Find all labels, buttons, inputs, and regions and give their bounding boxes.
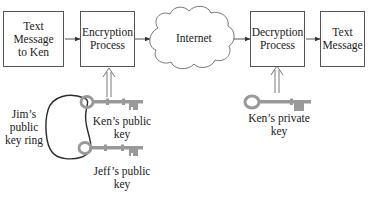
jeff-public-key-label: Jeff’s public key: [87, 165, 157, 191]
box-label-line: to Ken: [13, 46, 53, 59]
plaintext-output-box: Text Message: [320, 11, 365, 67]
jeff-public-key-icon: [79, 143, 143, 157]
encryption-process-box: Encryption Process: [80, 11, 135, 67]
label-line: Jeff’s public: [87, 165, 157, 178]
ken-private-key-icon: [245, 96, 311, 111]
box-label-line: Encryption: [82, 26, 133, 39]
key-ring-label: Jim’s public key ring: [4, 108, 44, 147]
decryption-process-box: Decryption Process: [250, 11, 305, 67]
box-label-line: Decryption: [252, 26, 304, 39]
label-line: key: [87, 178, 157, 191]
label-line: key: [87, 128, 157, 141]
ken-public-key-icon: [81, 97, 143, 111]
box-label-line: Message: [13, 33, 53, 46]
box-label-line: Process: [252, 39, 304, 52]
ken-private-key-label: Ken’s private key: [240, 112, 318, 138]
plaintext-input-box: Text Message to Ken: [3, 11, 64, 67]
key-ring-icon: [46, 95, 91, 159]
ken-private-key-to-decryption-arrow: [271, 66, 283, 93]
box-label-line: Text: [13, 20, 53, 33]
ken-public-key-to-encryption-arrow: [103, 68, 115, 97]
label-line: Ken’s public: [87, 115, 157, 128]
label-line: public: [4, 121, 44, 134]
box-label-line: Process: [82, 39, 133, 52]
label-line: Ken’s private: [240, 112, 318, 125]
internet-label: Internet: [176, 32, 212, 44]
label-line: key: [240, 125, 318, 138]
label-line: key ring: [4, 134, 44, 147]
box-label-line: Message: [322, 39, 362, 52]
ken-public-key-label: Ken’s public key: [87, 115, 157, 141]
label-line: Jim’s: [4, 108, 44, 121]
box-label-line: Text: [322, 26, 362, 39]
